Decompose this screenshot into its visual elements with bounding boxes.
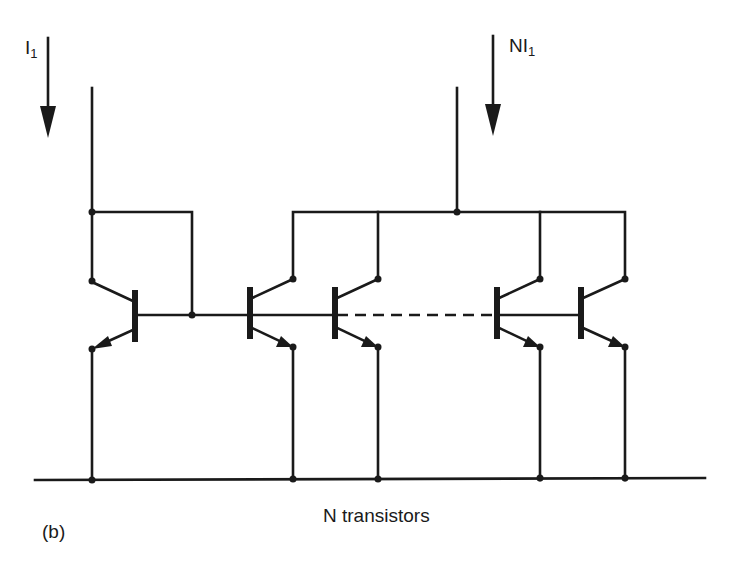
current-mirror-diagram: I1 NI1 N transistors (b) (0, 0, 734, 570)
transistor-reference (92, 282, 135, 480)
transistor-output-n-minus-1 (497, 279, 540, 480)
junction-dots (89, 209, 629, 484)
transistor-output-n (581, 279, 625, 480)
output-current-label: NI1 (509, 35, 535, 59)
caption-n-transistors: N transistors (323, 505, 430, 526)
transistor-output-2 (335, 279, 378, 480)
transistor-output-1 (250, 279, 293, 480)
ground-rail (35, 478, 705, 480)
input-current-arrow-icon (40, 38, 56, 138)
diode-connection-wire (92, 212, 192, 315)
output-current-arrow-icon (485, 36, 501, 136)
input-current-label: I1 (25, 37, 38, 61)
panel-label: (b) (42, 521, 65, 542)
collector-bus (293, 212, 625, 279)
